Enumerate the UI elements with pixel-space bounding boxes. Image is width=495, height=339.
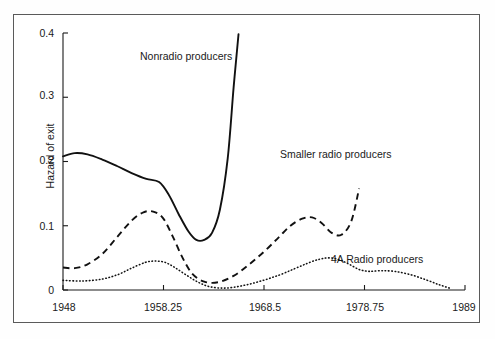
x-tick-marks — [63, 285, 465, 290]
y-tick-marks — [63, 33, 68, 290]
figure-container: Hazard of exit 0.4 0.3 0.2 0.1 0 1948 19… — [0, 0, 495, 339]
series-paths-group — [63, 34, 451, 288]
series-line-4a-radio-producers — [63, 258, 451, 289]
axes-lines — [63, 33, 465, 290]
chart-plot-area — [0, 0, 495, 339]
series-line-nonradio-producers — [63, 34, 239, 241]
